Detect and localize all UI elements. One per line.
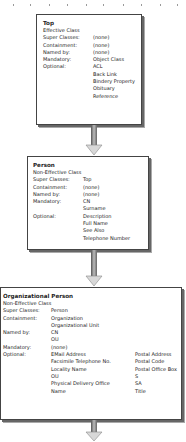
attribute-value: (none) [93,42,109,49]
attribute-value: Physical Delivery Office [51,380,135,387]
attribute-value: (none) [83,184,99,191]
attribute-label: Named by: [33,191,83,198]
class-name: Person [33,161,148,169]
attribute-value: (none) [83,191,99,198]
attribute-value: (none) [93,49,109,56]
attribute-row: Super Classes:(none) [43,34,141,41]
class-box-person: Person Non-Effective Class Super Classes… [27,156,149,250]
attribute-value: Bindery Property [93,78,135,85]
attribute-value: OU [51,336,59,343]
attribute-label: Super Classes: [3,307,51,314]
attribute-row: Named by:(none) [33,191,148,198]
attributes: Super Classes:PersonContainment:Organiza… [3,307,181,395]
attribute-value: Surname [83,205,106,212]
attribute-value: (none) [51,344,67,351]
attribute-value: Postal Code [135,358,177,365]
attribute-label: Mandatory: [3,344,51,351]
attribute-value: Locality Name [51,366,135,373]
attribute-value: Postal Office Box [135,366,177,373]
dot [177,4,178,6]
attribute-value: Organization [51,315,99,322]
dot [123,4,124,6]
attribute-value: ACL [93,63,135,70]
attribute-value: (none) [93,34,109,41]
attribute-row: Mandatory:CNSurname [33,198,148,213]
class-name: Top [43,19,141,27]
down-arrow-icon [82,250,106,288]
attribute-label: Containment: [33,184,83,191]
dot [160,4,161,6]
attribute-label: Named by: [43,49,93,56]
attribute-label: Mandatory: [43,56,93,63]
attribute-value: Description [83,213,130,220]
attributes: Super Classes:TopContainment:(none)Named… [33,176,148,242]
attribute-value: Obituary [93,85,135,92]
class-kind: Non-Effective Class [33,169,148,176]
attribute-value: Reference [93,93,135,100]
attribute-value: CN [83,198,106,205]
class-kind: Non-Effective Class [3,300,181,307]
attribute-value: Object Class [93,56,124,63]
down-arrow-icon [82,125,106,157]
dot [30,4,31,6]
attribute-label: Optional: [43,63,93,99]
attribute-label: Mandatory: [33,198,83,213]
class-box-organizational-person: Organizational Person Non-Effective Clas… [0,287,182,420]
attribute-value: S [135,373,177,380]
attribute-value: CN [51,329,59,336]
dot [49,4,50,6]
dot [67,4,68,6]
attribute-value: Top [83,176,91,183]
dotted-border [0,4,186,7]
attribute-value: Full Name [83,220,130,227]
attribute-value: Facsimile Telephone No. [51,358,135,365]
attribute-row: Optional:EMail AddressFacsimile Telephon… [3,351,181,395]
attributes: Super Classes:(none)Containment:(none)Na… [43,34,141,100]
attribute-row: Super Classes:Top [33,176,148,183]
attribute-label: Containment: [43,42,93,49]
dot [141,4,142,6]
class-kind: Effective Class [43,27,141,34]
down-arrow-icon [82,420,106,442]
attribute-value: Telephone Number [83,235,130,242]
attribute-label: Optional: [3,351,51,395]
class-name: Organizational Person [3,292,181,300]
attribute-row: Containment:OrganizationOrganizational U… [3,315,181,330]
attribute-value: Postal Address [135,351,177,358]
attribute-value: Person [51,307,68,314]
attribute-row: Containment:(none) [33,184,148,191]
attribute-row: Mandatory:Object Class [43,56,141,63]
dot [86,4,87,6]
attribute-label: Super Classes: [43,34,93,41]
attribute-value: Title [135,388,177,395]
class-box-top: Top Effective Class Super Classes:(none)… [36,14,142,125]
attribute-value: Name [51,388,135,395]
attribute-label: Containment: [3,315,51,330]
attribute-row: Optional:ACLBack LinkBindery PropertyObi… [43,63,141,99]
attribute-value: Organizational Unit [51,322,99,329]
dot [13,4,14,6]
attribute-value: Back Link [93,71,135,78]
attribute-row: Super Classes:Person [3,307,181,314]
attribute-label: Named by: [3,329,51,344]
attribute-value: OU [51,373,135,380]
attribute-value: EMail Address [51,351,135,358]
dot [103,4,104,6]
attribute-row: Mandatory:(none) [3,344,181,351]
attribute-label: Optional: [33,213,83,242]
attribute-row: Optional:DescriptionFull NameSee AlsoTel… [33,213,148,242]
attribute-value: SA [135,380,177,387]
attribute-label: Super Classes: [33,176,83,183]
attribute-row: Named by:(none) [43,49,141,56]
attribute-row: Named by:CNOU [3,329,181,344]
attribute-row: Containment:(none) [43,42,141,49]
attribute-value: See Also [83,227,130,234]
